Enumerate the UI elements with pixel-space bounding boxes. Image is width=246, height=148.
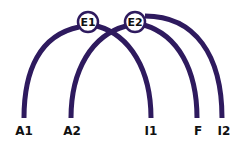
leaf-label-a2: A2 <box>63 124 81 138</box>
node-e1: E1 <box>78 12 98 32</box>
leaf-label-i2: I2 <box>218 124 231 138</box>
leaf-label-i1: I1 <box>145 124 158 138</box>
leaf-label-a1: A1 <box>15 124 33 138</box>
leaf-label-f: F <box>194 124 202 138</box>
node-e2-label: E2 <box>127 16 142 29</box>
node-e1-label: E1 <box>80 16 95 29</box>
edge-e1-i1 <box>97 26 151 118</box>
arc-diagram: E1 E2 <box>0 0 246 148</box>
edge-e2-a2 <box>71 26 126 118</box>
node-e2: E2 <box>125 12 145 32</box>
